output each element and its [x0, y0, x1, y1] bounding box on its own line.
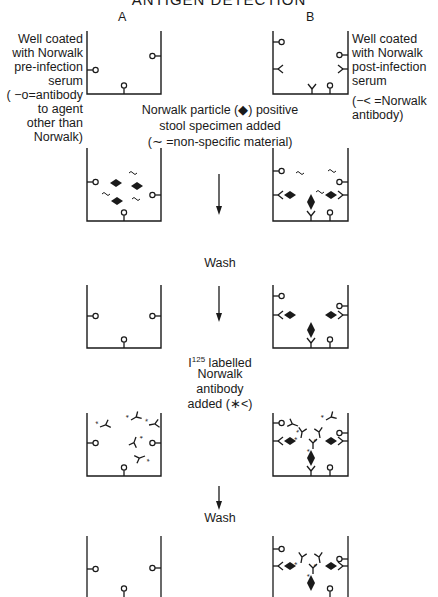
- labelled-antibody-icon: *: [286, 419, 302, 435]
- circle: [150, 565, 155, 570]
- labelled-antibody-icon: *: [293, 552, 307, 567]
- line: [338, 566, 343, 570]
- labelled-antibody-icon: *: [145, 415, 160, 429]
- line: [302, 428, 307, 433]
- norwalk-particle-icon: [325, 191, 337, 199]
- asterisk: *: [305, 574, 314, 577]
- norwalk-particle-icon: [325, 437, 337, 445]
- arrow-head: [216, 501, 222, 510]
- control-antibody-icon: [87, 313, 98, 318]
- norwalk-antibody-icon: [338, 65, 348, 73]
- control-antibody-icon: [87, 440, 98, 445]
- asterisk: *: [145, 454, 151, 464]
- control-antibody-icon: [150, 53, 161, 58]
- control-antibody-icon: [273, 39, 284, 44]
- circle: [337, 430, 342, 435]
- arrow-head: [216, 313, 222, 322]
- norwalk-antibody-icon: [338, 191, 348, 199]
- circle: [150, 53, 155, 58]
- circle: [327, 83, 332, 88]
- circle: [279, 546, 284, 551]
- diagram-canvas: *************: [0, 0, 438, 597]
- labelled-antibody-icon: *: [319, 408, 336, 425]
- line: [338, 69, 343, 73]
- line: [155, 423, 160, 428]
- control-antibody-icon: [327, 337, 332, 348]
- arrow-head: [216, 206, 222, 215]
- line: [307, 211, 311, 216]
- well-a-labelled: *****: [87, 408, 161, 476]
- line: [278, 315, 283, 319]
- norwalk-antibody-icon: [273, 437, 283, 445]
- nonspecific-material-icon: [129, 172, 137, 175]
- labelled-antibody-icon: *: [305, 564, 317, 577]
- labelled-antibody-icon: *: [310, 427, 324, 442]
- line: [149, 424, 155, 425]
- line: [100, 425, 106, 427]
- control-antibody-icon: [273, 293, 284, 298]
- line: [129, 441, 134, 446]
- norwalk-antibody-icon: [307, 211, 315, 221]
- process-arrow: [216, 486, 222, 510]
- norwalk-particle-icon: [307, 322, 315, 338]
- control-antibody-icon: [327, 210, 332, 221]
- line: [278, 437, 283, 441]
- control-antibody-icon: [273, 168, 284, 173]
- line: [302, 553, 307, 558]
- line: [338, 195, 343, 199]
- norwalk-particle-icon: [325, 562, 337, 570]
- circle: [279, 293, 284, 298]
- circle: [121, 337, 126, 342]
- norwalk-particle-icon: [284, 191, 296, 199]
- line: [318, 427, 323, 432]
- circle: [93, 313, 98, 318]
- control-antibody-icon: [121, 83, 126, 94]
- labelled-antibody-icon: *: [94, 416, 110, 432]
- line: [338, 191, 343, 195]
- line: [308, 84, 312, 89]
- line: [338, 562, 343, 566]
- control-antibody-icon: [337, 179, 348, 184]
- circle: [279, 420, 284, 425]
- line: [307, 338, 311, 343]
- control-antibody-icon: [327, 83, 332, 94]
- well-b-coated: [273, 31, 348, 94]
- control-antibody-icon: [150, 313, 161, 318]
- circle: [327, 337, 332, 342]
- circle: [121, 83, 126, 88]
- line: [104, 420, 109, 425]
- line: [134, 437, 136, 443]
- line: [301, 557, 302, 563]
- line: [139, 456, 145, 458]
- well-a-washed: [87, 285, 161, 348]
- nonspecific-material-icon: [316, 191, 324, 194]
- well-b-labelled: *****: [273, 408, 348, 476]
- well-a-final: [87, 536, 161, 597]
- control-antibody-icon: [121, 586, 126, 597]
- line: [311, 211, 315, 216]
- asterisk: *: [124, 413, 131, 422]
- line: [338, 315, 343, 319]
- control-antibody-icon: [327, 586, 332, 597]
- line: [278, 441, 283, 445]
- process-arrow: [216, 174, 222, 215]
- circle: [337, 179, 342, 184]
- line: [312, 84, 316, 89]
- norwalk-antibody-icon: [273, 65, 283, 73]
- circle: [121, 465, 126, 470]
- well-a-coated: [87, 31, 161, 94]
- circle: [93, 440, 98, 445]
- labelled-antibody-icon: *: [134, 451, 150, 467]
- line: [314, 553, 319, 558]
- line: [289, 419, 294, 424]
- line: [329, 412, 334, 417]
- control-antibody-icon: [337, 303, 348, 308]
- line: [338, 441, 343, 445]
- line: [311, 466, 315, 471]
- line: [314, 428, 319, 433]
- circle: [279, 39, 284, 44]
- norwalk-antibody-icon: [273, 191, 283, 199]
- line: [307, 466, 311, 471]
- line: [136, 458, 141, 463]
- circle: [150, 440, 155, 445]
